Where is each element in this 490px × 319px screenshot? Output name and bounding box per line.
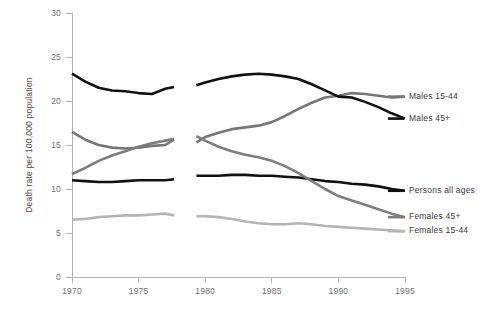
- x-tick-label: 1995: [395, 286, 415, 296]
- y-axis-title: Death rate per 100,000 population: [24, 77, 34, 213]
- y-tick-label: 15: [51, 140, 61, 150]
- legend-label-females-45-: Females 45+: [409, 211, 461, 221]
- line-chart: 051015202530 197019751980198519901995 De…: [0, 0, 490, 319]
- y-tick-label: 30: [51, 8, 61, 18]
- series-line-persons-all-ages: [72, 179, 174, 182]
- x-axis: 197019751980198519901995: [62, 277, 415, 296]
- legend-label-females-15-44: Females 15-44: [409, 225, 468, 235]
- y-tick-label: 5: [56, 228, 61, 238]
- legend-label-males-15-44: Males 15-44: [409, 91, 458, 101]
- series-line-males-15-44: [72, 132, 174, 149]
- y-tick-label: 0: [56, 272, 61, 282]
- x-tick-label: 1990: [329, 286, 349, 296]
- chart-container: 051015202530 197019751980198519901995 De…: [0, 0, 490, 319]
- x-tick-label: 1980: [195, 286, 215, 296]
- legend-label-persons-all-ages: Persons all ages: [409, 185, 475, 195]
- legend-label-males-45-: Males 45+: [409, 113, 450, 123]
- series-group: [72, 74, 405, 232]
- x-tick-label: 1970: [62, 286, 82, 296]
- y-tick-label: 20: [51, 96, 61, 106]
- series-line-persons-all-ages: [196, 175, 405, 191]
- y-tick-group: 051015202530: [51, 8, 72, 282]
- series-line-females-15-44: [72, 214, 174, 220]
- y-tick-label: 25: [51, 52, 61, 62]
- y-tick-label: 10: [51, 184, 61, 194]
- series-line-females-45-: [72, 139, 174, 174]
- chart-legend: Males 15-44Males 45+Persons all agesFema…: [388, 91, 475, 236]
- series-line-males-15-44: [196, 93, 405, 142]
- x-tick-group: 197019751980198519901995: [62, 277, 415, 296]
- x-tick-label: 1975: [129, 286, 149, 296]
- series-line-males-45-: [72, 74, 174, 94]
- x-tick-label: 1985: [262, 286, 282, 296]
- series-line-females-15-44: [196, 216, 405, 231]
- y-axis: 051015202530: [51, 8, 72, 282]
